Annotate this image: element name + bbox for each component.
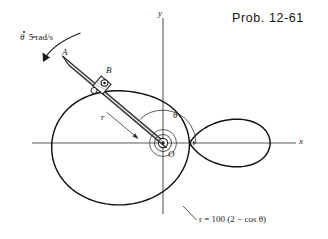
- theta-dot-accent: [23, 31, 25, 33]
- theta-symbol: θ: [20, 32, 24, 42]
- cardioid-curve: [52, 91, 271, 205]
- angle-theta-label: θ: [173, 111, 177, 120]
- problem-figure: Prob. 12-61 θ 5 rad/s = = A B r θ O y x …: [0, 0, 328, 239]
- arm-slot-line-lower: [66, 62, 164, 145]
- y-axis-label: y: [158, 9, 162, 18]
- curve-equation-label: r = 100 (2 − cos θ): [199, 215, 266, 224]
- point-a-label: A: [62, 48, 68, 57]
- theta-arc: [140, 110, 196, 143]
- collar-roller: [91, 88, 97, 94]
- cam-profile-group: [52, 91, 271, 205]
- theta-dot-symbol: θ: [20, 33, 24, 42]
- origin-label: O: [168, 150, 175, 159]
- equation-leader-line: [183, 206, 197, 220]
- x-axis-label: x: [299, 137, 303, 146]
- radius-label: r: [101, 113, 105, 122]
- axes-group: [32, 18, 296, 214]
- angular-velocity-equals: =: [31, 33, 36, 42]
- slotted-arm-group: [63, 56, 167, 148]
- equation-leader-group: [183, 206, 197, 220]
- arm-edge-lower: [69, 65, 167, 148]
- collar-pin-center: [103, 82, 106, 85]
- problem-number-label: Prob. 12-61: [232, 12, 304, 25]
- point-b-label: B: [106, 66, 112, 75]
- rotation-arrowhead: [43, 53, 50, 62]
